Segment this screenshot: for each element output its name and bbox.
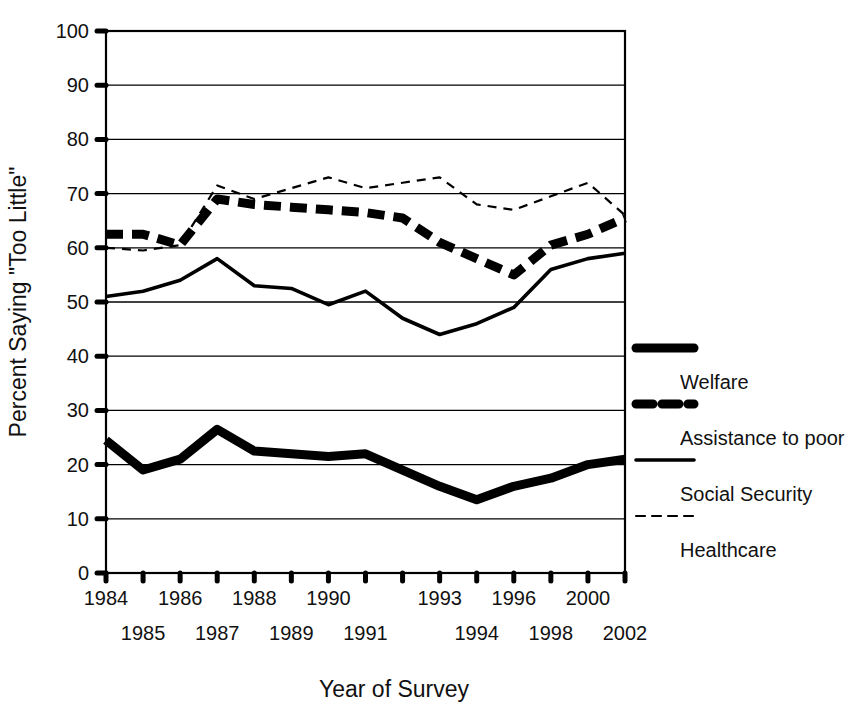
legend-label: Assistance to poor (680, 427, 845, 449)
x-tick-label: 1998 (529, 622, 574, 644)
y-tick-label: 40 (67, 345, 89, 367)
chart-legend: WelfareAssistance to poorSocial Security… (636, 348, 845, 561)
x-tick-label: 1996 (492, 587, 537, 609)
y-axis-ticks: 0102030405060708090100 (56, 20, 106, 584)
x-tick-label: 1993 (417, 587, 462, 609)
legend-label: Social Security (680, 483, 812, 505)
x-axis-title: Year of Survey (319, 676, 470, 702)
x-tick-label: 1987 (195, 622, 240, 644)
y-tick-label: 30 (67, 399, 89, 421)
y-tick-label: 70 (67, 183, 89, 205)
chart-figure: 0102030405060708090100 19841985198619871… (0, 0, 866, 720)
x-tick-label: 1988 (232, 587, 277, 609)
y-tick-label: 80 (67, 128, 89, 150)
x-tick-label: 1990 (306, 587, 351, 609)
y-tick-label: 60 (67, 237, 89, 259)
x-axis-ticks: 1984198519861987198819891990199119931994… (84, 573, 648, 644)
x-tick-label: 2000 (566, 587, 611, 609)
x-tick-label: 1984 (84, 587, 129, 609)
y-tick-label: 10 (67, 508, 89, 530)
line-chart-canvas: 0102030405060708090100 19841985198619871… (0, 0, 866, 720)
y-tick-label: 100 (56, 20, 89, 42)
x-tick-label: 2002 (603, 622, 648, 644)
x-tick-label: 1986 (158, 587, 203, 609)
x-tick-label: 1991 (343, 622, 388, 644)
y-tick-label: 20 (67, 454, 89, 476)
x-tick-label: 1989 (269, 622, 314, 644)
series-line-healthcare (106, 177, 625, 250)
series-line-assistance-to-poor (106, 199, 625, 275)
y-tick-label: 50 (67, 291, 89, 313)
y-tick-label: 90 (67, 74, 89, 96)
legend-label: Welfare (680, 371, 749, 393)
data-series-layer (106, 177, 625, 499)
y-axis-title: Percent Saying "Too Little" (5, 167, 31, 438)
y-tick-label: 0 (78, 562, 89, 584)
x-tick-label: 1994 (454, 622, 499, 644)
legend-label: Healthcare (680, 539, 777, 561)
x-tick-label: 1985 (121, 622, 166, 644)
series-line-social-security (106, 253, 625, 334)
